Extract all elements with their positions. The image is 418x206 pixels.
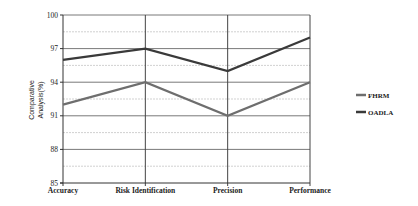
x-tick-labels: AccuracyRisk IdentificationPrecisionPerf… bbox=[48, 186, 332, 195]
major-gridlines bbox=[63, 15, 310, 149]
y-axis-label-line-2: Analysis(%) bbox=[37, 82, 45, 119]
y-tick-label: 91 bbox=[51, 111, 59, 120]
series-line-oadla bbox=[63, 37, 310, 71]
legend: FHRMOADLA bbox=[356, 92, 393, 117]
legend-item-oadla: OADLA bbox=[356, 109, 393, 117]
y-tick-label: 88 bbox=[51, 145, 59, 154]
y-tick-label: 94 bbox=[51, 78, 59, 87]
series-lines bbox=[63, 37, 310, 115]
x-tick-label: Performance bbox=[289, 186, 331, 195]
y-axis-label-line-1: Comparative bbox=[28, 80, 36, 120]
legend-item-fhrm: FHRM bbox=[356, 92, 390, 100]
legend-label: FHRM bbox=[368, 92, 390, 100]
y-tick-label: 97 bbox=[51, 44, 59, 53]
category-gridlines bbox=[145, 15, 310, 186]
y-tick-label: 100 bbox=[47, 11, 59, 20]
legend-label: OADLA bbox=[368, 109, 393, 117]
x-tick-label: Risk Identification bbox=[115, 186, 176, 195]
y-tick-labels: 8588919497100 bbox=[47, 11, 63, 188]
y-axis-label: Comparative Analysis(%) bbox=[28, 80, 45, 120]
line-chart: 8588919497100 AccuracyRisk Identificatio… bbox=[0, 0, 418, 206]
x-tick-label: Accuracy bbox=[48, 186, 79, 195]
x-tick-label: Precision bbox=[213, 186, 243, 195]
